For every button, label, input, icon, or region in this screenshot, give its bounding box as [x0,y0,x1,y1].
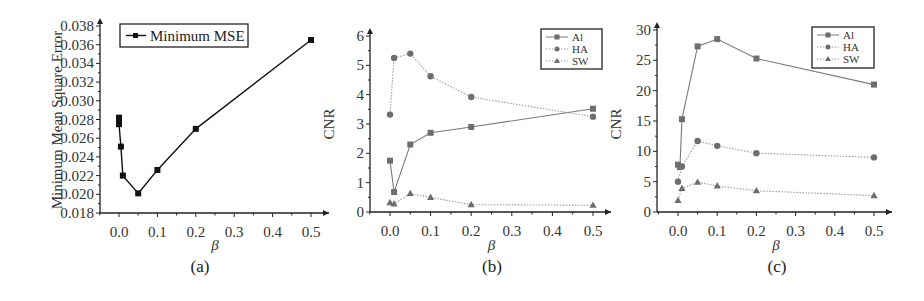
circle-marker-icon [391,55,397,61]
y-tick-label: 15 [636,113,651,129]
legend-label: SW [843,53,860,65]
x-axis-arrow-icon [886,209,892,215]
triangle-marker-icon [674,197,681,203]
square-marker-icon [590,106,596,112]
circle-marker-icon [714,143,720,149]
square-marker-icon [428,130,434,136]
x-tick-label: 0.0 [110,224,129,240]
panel-label: (c) [768,257,787,276]
square-marker-icon [387,158,393,164]
series-ha [675,138,877,185]
square-marker-icon [468,124,474,130]
panel-b-cnr-chart: 01234560.00.10.20.30.40.5CNRβ(b)AlHASW [321,28,611,276]
y-tick-label: 0.022 [60,168,94,184]
triangle-marker-icon [427,194,434,200]
circle-marker-icon [694,138,700,144]
y-tick-label: 20 [636,83,651,99]
y-tick-label: 10 [636,143,651,159]
y-tick-label: 0.028 [60,112,94,128]
x-tick-label: 0.5 [584,223,603,239]
panel-a-mse-chart: 0.0180.0200.0220.0240.0260.0280.0300.032… [49,18,329,276]
legend-label: HA [843,41,859,53]
y-tick-label: 0.020 [60,186,94,202]
legend: AlHASW [812,27,874,68]
square-marker-icon [407,142,413,148]
x-tick-label: 0.0 [381,223,400,239]
triangle-marker-icon [407,190,414,196]
triangle-marker-icon [589,201,596,207]
y-tick-label: 0.032 [60,74,94,90]
circle-marker-icon [387,111,393,117]
legend-label: Al [572,31,583,43]
x-axis-title: β [210,237,219,253]
y-tick-label: 30 [636,22,651,38]
series-sw [674,178,877,203]
x-tick-label: 0.3 [225,224,244,240]
y-tick-label: 2 [357,145,365,161]
x-tick-label: 0.0 [669,223,688,239]
x-tick-label: 0.5 [865,223,884,239]
x-tick-label: 0.3 [786,223,805,239]
y-tick-label: 5 [644,174,652,190]
y-tick-label: 0.018 [60,205,94,221]
circle-marker-icon [871,154,877,160]
triangle-marker-icon [694,178,701,184]
circle-marker-icon [407,50,413,56]
square-marker-icon [135,190,141,196]
x-axis-arrow-icon [605,209,611,215]
y-tick-label: 0.034 [60,55,94,71]
triangle-marker-icon [753,187,760,193]
square-marker-icon [753,56,759,62]
figure: 0.0180.0200.0220.0240.0260.0280.0300.032… [0,0,924,301]
legend-label: Minimum MSE [150,28,245,44]
circle-marker-icon [753,150,759,156]
series-sw [386,190,596,208]
panel-label: (b) [482,257,502,276]
y-axis-title: CNR [608,109,624,140]
series-al [387,106,596,195]
circle-marker-icon [675,178,681,184]
square-marker-icon [695,43,701,49]
square-marker-icon [118,144,124,150]
panel-c-cnr-chart: 0510152025300.00.10.20.30.40.5CNRβ(c)AlH… [608,22,892,276]
y-tick-label: 0.038 [60,18,94,34]
x-axis-title: β [487,237,496,253]
triangle-marker-icon [468,201,475,207]
circle-marker-icon [590,113,596,119]
square-marker-icon [308,37,314,43]
circle-marker-icon [468,94,474,100]
x-tick-label: 0.1 [148,224,167,240]
triangle-marker-icon [714,182,721,188]
x-tick-label: 0.2 [462,223,481,239]
x-tick-label: 0.1 [421,223,440,239]
square-marker-icon [391,189,397,195]
x-tick-label: 0.2 [186,224,205,240]
x-tick-label: 0.2 [747,223,766,239]
circle-marker-icon [427,73,433,79]
legend: AlHASW [541,29,602,69]
y-axis-arrow-icon [367,28,373,34]
square-marker-icon [871,82,877,88]
x-tick-label: 0.4 [825,223,844,239]
x-tick-label: 0.5 [302,224,321,240]
y-tick-label: 4 [357,87,365,103]
y-axis-arrow-icon [97,18,103,24]
x-tick-label: 0.3 [502,223,521,239]
legend-label: HA [572,43,588,55]
legend-label: Al [843,29,854,41]
y-axis-title: CNR [321,109,337,140]
square-marker-icon [679,116,685,122]
square-marker-icon [193,126,199,132]
x-axis-arrow-icon [323,210,329,216]
y-axis-title: Minimum Mean Square Error [49,31,65,210]
x-tick-label: 0.4 [543,223,562,239]
y-tick-label: 0.030 [60,93,94,109]
x-axis-title: β [771,237,780,253]
y-tick-label: 6 [357,28,365,44]
legend: Minimum MSE [120,24,248,47]
y-tick-label: 0.036 [60,37,94,53]
square-marker-icon [714,36,720,42]
y-tick-label: 1 [357,175,365,191]
y-tick-label: 0 [357,204,365,220]
y-tick-label: 0.026 [60,130,94,146]
